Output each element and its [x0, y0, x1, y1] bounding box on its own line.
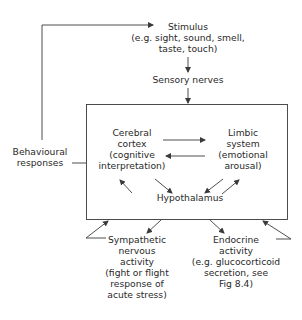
arrow-box-to-sympathetic: [147, 220, 161, 233]
limbic-line3: (emotional: [213, 149, 273, 160]
hypothalamus-label: Hypothalamus: [150, 192, 230, 203]
behavioural-responses-node: Behavioural responses: [6, 146, 74, 168]
arrow-box-to-endocrine: [210, 220, 224, 233]
sensory-nerves-label: Sensory nerves: [138, 74, 238, 85]
arrow-hypo-to-cortex: [120, 180, 132, 193]
limbic-line2: system: [213, 138, 273, 149]
sympathetic-node: Sympathetic nervous activity (fight or f…: [101, 234, 173, 300]
arrow-cortex-to-hypo: [155, 179, 172, 193]
cortex-line3: (cognitive: [96, 149, 168, 160]
behavioural-line2: responses: [6, 157, 74, 168]
endocrine-line5: Fig 8.4): [190, 278, 282, 289]
limbic-line1: Limbic: [213, 127, 273, 138]
sympathetic-line1: Sympathetic: [101, 234, 173, 245]
sympathetic-line2: nervous: [101, 245, 173, 256]
endocrine-line4: secretion, see: [190, 267, 282, 278]
stimulus-examples: (e.g. sight, sound, smell,: [118, 32, 258, 43]
stimulus-title: Stimulus: [118, 21, 258, 32]
hypothalamus-node: Hypothalamus: [150, 192, 230, 203]
cortex-line4: interpretation): [96, 160, 168, 171]
cortex-line1: Cerebral: [96, 127, 168, 138]
endocrine-node: Endocrine activity (e.g. glucocorticoid …: [190, 234, 282, 289]
sympathetic-line4: (fight or flight: [101, 267, 173, 278]
stimulus-examples-2: taste, touch): [118, 43, 258, 54]
sympathetic-line3: activity: [101, 256, 173, 267]
cortex-line2: cortex: [96, 138, 168, 149]
arrow-limbic-to-hypo: [205, 179, 223, 193]
limbic-line4: arousal): [213, 160, 273, 171]
limbic-system-node: Limbic system (emotional arousal): [213, 127, 273, 171]
sympathetic-line5: response of: [101, 278, 173, 289]
sensory-nerves-node: Sensory nerves: [138, 74, 238, 85]
cerebral-cortex-node: Cerebral cortex (cognitive interpretatio…: [96, 127, 168, 171]
endocrine-line2: activity: [190, 245, 282, 256]
endocrine-line3: (e.g. glucocorticoid: [190, 256, 282, 267]
endocrine-line1: Endocrine: [190, 234, 282, 245]
stimulus-node: Stimulus (e.g. sight, sound, smell, tast…: [118, 21, 258, 54]
behavioural-line1: Behavioural: [6, 146, 74, 157]
sympathetic-line6: acute stress): [101, 289, 173, 300]
